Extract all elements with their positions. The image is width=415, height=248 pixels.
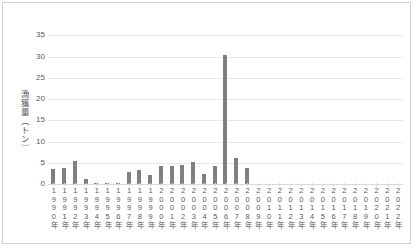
y-axis-tick-label: 35 [29,31,45,39]
bar-slot [242,27,253,184]
bar-slot [70,27,81,184]
x-axis-tick-label: 2008年 [243,186,251,229]
bar-slot [166,27,177,184]
x-axis-tick-label: 1999年 [146,186,154,229]
bar-slot [306,27,317,184]
x-axis-tick-label: 1990年 [49,186,57,229]
bar [73,161,77,184]
x-axis-tick-label: 1991年 [60,186,68,229]
x-axis-tick-label: 2022年 [394,186,402,229]
bar-slot [231,27,242,184]
bar-slot [263,27,274,184]
x-axis-tick-label: 2012年 [286,186,294,229]
x-axis-tick-label: 2002年 [178,186,186,229]
bar-slot [123,27,134,184]
bar-slot [252,27,263,184]
bar-slot [145,27,156,184]
bar [62,168,66,184]
bar-slot [134,27,145,184]
bar-series [48,27,403,184]
x-axis-tick-label: 2003年 [189,186,197,229]
bar-slot [48,27,59,184]
bar [223,55,227,184]
y-axis-tick-label: 0 [29,180,45,188]
y-axis-tick-label: 20 [29,95,45,103]
x-axis-tick-label: 2006年 [222,186,230,229]
bar [245,168,249,184]
bar-slot [113,27,124,184]
bar-slot [328,27,339,184]
bar-slot [381,27,392,184]
x-axis-tick-label: 2005年 [211,186,219,229]
x-axis-tick-label: 2000年 [157,186,165,229]
bar [213,166,217,184]
bar [137,170,141,184]
chart-container: 漁獲量（トン） 05101520253035 1990年1991年1992年19… [2,2,411,244]
bar [51,169,55,184]
x-axis-tick-label: 2015年 [318,186,326,229]
x-axis-tick-label: 2017年 [340,186,348,229]
x-axis-tick-label: 2018年 [351,186,359,229]
bar-slot [188,27,199,184]
bar-slot [220,27,231,184]
bar-slot [295,27,306,184]
bar-slot [59,27,70,184]
y-axis-tick-label: 25 [29,74,45,82]
y-axis-tick-label: 5 [29,159,45,167]
y-axis-tick-label: 15 [29,116,45,124]
bar [159,166,163,184]
x-axis-tick-labels: 1990年1991年1992年1993年1994年1995年1996年1997年… [48,186,403,244]
bar-slot [349,27,360,184]
x-axis-tick-label: 1996年 [114,186,122,229]
bar-slot [360,27,371,184]
bar-slot [338,27,349,184]
bar-slot [91,27,102,184]
bar [234,158,238,184]
x-axis-tick-label: 1992年 [71,186,79,229]
bar [191,162,195,184]
x-axis-tick-label: 2019年 [361,186,369,229]
bar-slot [209,27,220,184]
bar-slot [274,27,285,184]
x-axis-tick-label: 2014年 [308,186,316,229]
bar [180,165,184,184]
bar-slot [285,27,296,184]
x-axis-tick-label: 2009年 [254,186,262,229]
bar-slot [392,27,403,184]
x-axis-tick-label: 2013年 [297,186,305,229]
x-axis-tick-label: 1993年 [82,186,90,229]
x-axis-tick-label: 2016年 [329,186,337,229]
x-axis-tick-label: 1998年 [135,186,143,229]
bar-slot [371,27,382,184]
x-axis-tick-label: 2004年 [200,186,208,229]
y-axis-tick-label: 10 [29,138,45,146]
x-axis-tick-label: 2007年 [232,186,240,229]
y-axis-tick-label: 30 [29,53,45,61]
bar [170,166,174,184]
bar-slot [156,27,167,184]
bar-slot [177,27,188,184]
x-axis-tick-label: 2011年 [275,186,283,229]
x-axis-tick-label: 1994年 [92,186,100,229]
bar-slot [80,27,91,184]
x-axis-tick-label: 2020年 [372,186,380,229]
x-axis-tick-label: 2001年 [168,186,176,229]
y-axis-tick-labels: 05101520253035 [25,27,45,184]
x-axis-tick-label: 1997年 [125,186,133,229]
bar-slot [199,27,210,184]
x-axis-tick-label: 2010年 [265,186,273,229]
x-axis-tick-label: 1995年 [103,186,111,229]
bar-slot [102,27,113,184]
bar-slot [317,27,328,184]
x-axis-tick-label: 2021年 [383,186,391,229]
